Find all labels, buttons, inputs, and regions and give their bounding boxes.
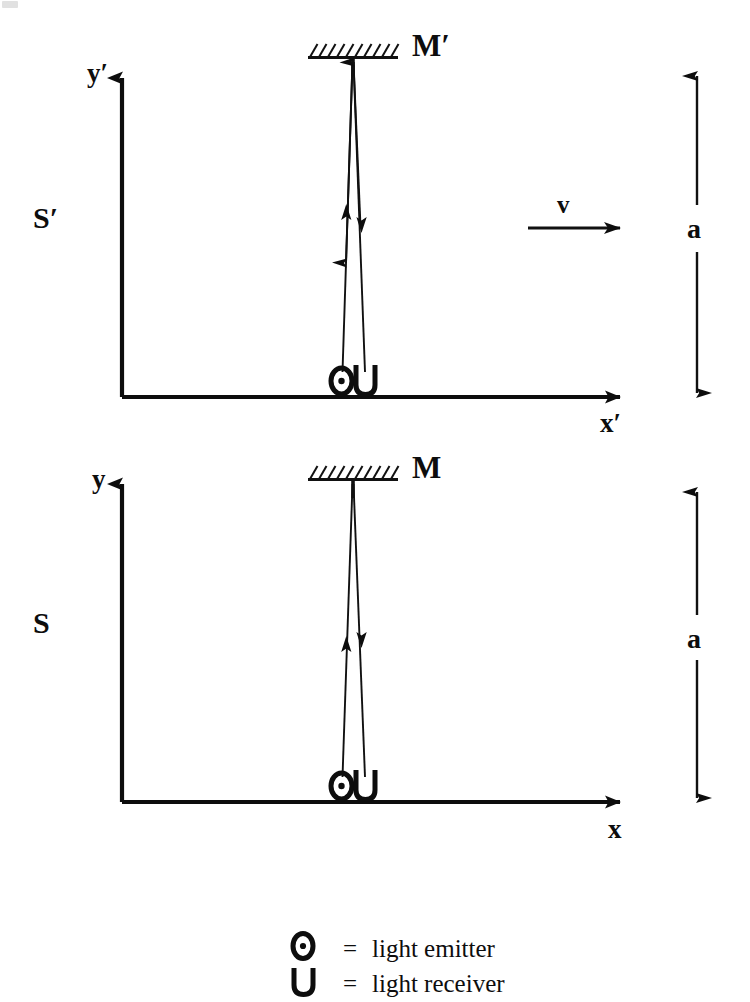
light-path xyxy=(343,484,366,777)
legend-equals-receiver: = xyxy=(343,970,357,997)
dimension-label: a xyxy=(687,623,701,654)
x-axis-label: x xyxy=(608,814,622,844)
dimension-label-prime: a xyxy=(687,213,701,244)
ray-arrowheads xyxy=(341,632,367,652)
mirror-hatching-prime xyxy=(310,44,399,57)
legend-row-receiver: = light receiver xyxy=(294,968,505,997)
frame-label-s-prime: S′ xyxy=(33,201,58,234)
legend-receiver-icon xyxy=(294,968,313,995)
frame-moving-group: S′ y′ x′ xyxy=(33,28,701,438)
mirror-hatching xyxy=(310,466,399,479)
frame-label-s: S xyxy=(33,606,50,639)
y-axis-label-prime: y′ xyxy=(87,58,108,88)
ray-arrowheads-prime xyxy=(341,204,367,233)
legend-description-emitter: light emitter xyxy=(372,935,496,962)
light-path-prime xyxy=(343,62,366,372)
figure-root: S′ y′ x′ xyxy=(0,0,750,1002)
x-axis-label-prime: x′ xyxy=(600,408,621,438)
frame-rest-group: S y x xyxy=(33,450,701,844)
legend-equals-emitter: = xyxy=(343,935,357,962)
physics-diagram-canvas: S′ y′ x′ xyxy=(0,0,750,1002)
legend-row-emitter: = light emitter xyxy=(293,934,496,963)
legend-description-receiver: light receiver xyxy=(372,970,505,997)
mirror-label-prime: M′ xyxy=(412,28,450,63)
light-emitter xyxy=(331,773,352,799)
mirror-label: M xyxy=(412,450,441,485)
scan-artifact xyxy=(2,1,18,8)
y-axis-label: y xyxy=(92,464,106,494)
legend-emitter-icon xyxy=(293,934,313,959)
legend: = light emitter = light receiver xyxy=(293,934,505,998)
light-emitter-prime xyxy=(331,368,352,394)
velocity-label: v xyxy=(557,191,570,218)
